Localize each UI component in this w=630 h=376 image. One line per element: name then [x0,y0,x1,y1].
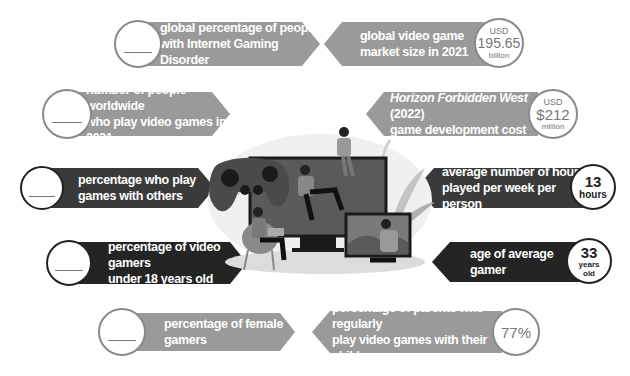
value-unit-bottom: years [579,260,600,269]
answer-blank-circle[interactable] [46,240,92,286]
value-unit-bottom: billion [489,51,509,60]
stat-number-of-players: number of people worldwide who play vide… [70,92,230,136]
stat-label-line1: global video game [360,28,468,44]
stat-label-line1: percentage of female gamers [164,316,295,348]
value-number: 77% [501,325,531,340]
stat-label-line1: number of people worldwide [86,82,230,114]
answer-blank-circle[interactable] [42,89,92,139]
value-circle: USD $212 million [528,89,578,139]
stat-label-line2: who play video games in 2021 [86,114,230,146]
value-number: 195.65 [478,36,521,51]
stat-label-line1: global percentage of people [160,20,320,36]
answer-blank-circle[interactable] [20,166,64,210]
value-number: 33 [581,245,598,260]
stat-label-line2: game development cost [390,122,538,138]
value-unit-bottom: hours [579,189,607,200]
stat-play-with-others: percentage who play games with others [40,168,215,208]
value-unit-bottom: million [542,122,565,131]
stat-horizon-dev-cost: Horizon Forbidden West (2022) game devel… [366,92,538,136]
stat-internet-gaming-disorder: global percentage of people with Interne… [140,22,320,66]
value-number: $212 [536,107,569,122]
stat-market-size: global video game market size in 2021 [324,22,494,66]
stat-parents-play: percentage of parents who regularly play… [312,311,502,353]
answer-blank-circle[interactable] [114,20,162,68]
stat-label-line2: with Internet Gaming Disorder [160,36,320,68]
value-circle: 13 hours [570,164,616,210]
value-circle: USD 195.65 billion [474,18,524,68]
answer-blank-line [29,196,55,197]
answer-blank-line [108,340,136,341]
stat-label-line1: percentage of video gamers [108,239,247,271]
stat-label-line2: market size in 2021 [360,44,468,60]
game-year: (2022) [390,107,424,121]
value-number: 13 [585,174,602,189]
stat-hours-per-week: average number of hours played per week … [416,168,596,208]
game-title: Horizon Forbidden West [390,91,528,105]
answer-blank-line [52,122,82,123]
stat-label-line2: games with others [78,188,196,204]
value-circle: 33 years old [566,238,612,284]
answer-blank-circle[interactable] [98,308,146,356]
stat-average-age: age of average gamer [432,242,582,282]
answer-blank-line [55,270,83,271]
stat-female-gamers: percentage of female gamers [120,313,295,351]
stat-label-line2: under 18 years old [108,271,247,287]
answer-blank-line [124,52,152,53]
stat-label-line1: percentage who play [78,172,196,188]
value-unit-bottom: old [583,269,595,278]
stat-label-line2: play video games with their children [332,332,502,364]
stat-label-line1: percentage of parents who regularly [332,300,502,332]
value-circle: 77% [492,308,540,356]
stat-under-18: percentage of video gamers under 18 year… [72,242,247,284]
